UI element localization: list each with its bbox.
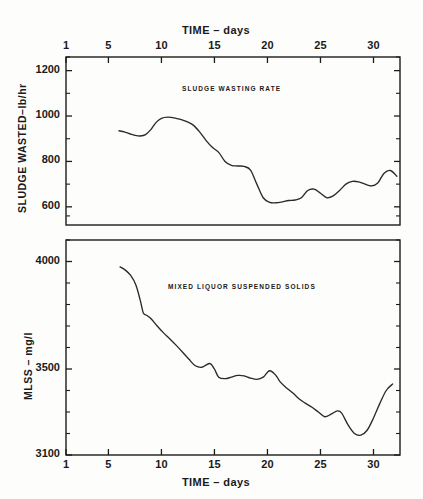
data-curve bbox=[120, 267, 393, 436]
x-tick-label: 15 bbox=[194, 458, 234, 470]
y-tick-label: 1200 bbox=[12, 63, 60, 75]
x-tick-label: 30 bbox=[353, 458, 393, 470]
bottom-axis-title: TIME – days bbox=[182, 476, 250, 488]
x-tick-label: 5 bbox=[88, 39, 128, 51]
x-tick-label: 1 bbox=[46, 458, 86, 470]
x-tick-label: 5 bbox=[88, 458, 128, 470]
x-tick-label: 15 bbox=[194, 39, 234, 51]
y-tick-label: 600 bbox=[12, 199, 60, 211]
y-tick-label: 3500 bbox=[12, 361, 60, 373]
y-tick-label: 3100 bbox=[12, 447, 60, 459]
figure-panel: TIME – days SLUDGE WASTED–lb/hr SLUDGE W… bbox=[0, 0, 423, 499]
y-tick-label: 4000 bbox=[12, 254, 60, 266]
plot-frame bbox=[66, 240, 400, 455]
x-tick-label: 20 bbox=[247, 39, 287, 51]
x-tick-label: 10 bbox=[141, 39, 181, 51]
x-tick-label: 25 bbox=[300, 39, 340, 51]
x-tick-label: 10 bbox=[141, 458, 181, 470]
x-tick-label: 25 bbox=[300, 458, 340, 470]
y-tick-label: 800 bbox=[12, 153, 60, 165]
x-tick-label: 20 bbox=[247, 458, 287, 470]
y-tick-label: 1000 bbox=[12, 108, 60, 120]
x-tick-label: 1 bbox=[46, 39, 86, 51]
x-tick-label: 30 bbox=[353, 39, 393, 51]
lower-chart-svg bbox=[0, 0, 423, 499]
